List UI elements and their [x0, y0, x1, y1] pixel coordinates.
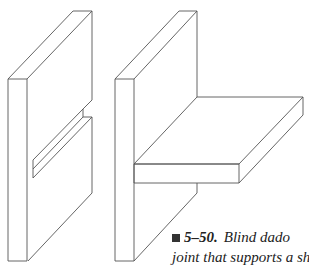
figure-caption: 5–50.Blind dado joint that supports a sh…: [172, 227, 309, 267]
caption-line-1: 5–50.Blind dado: [172, 227, 309, 247]
right-board-with-shelf: [115, 11, 303, 261]
figure-number: 5–50.: [184, 229, 218, 245]
caption-square-marker: [172, 234, 180, 242]
left-board-with-dado: [8, 11, 92, 261]
caption-line-2: joint that supports a shelf.: [172, 247, 309, 267]
caption-text-1: Blind dado: [224, 229, 290, 245]
